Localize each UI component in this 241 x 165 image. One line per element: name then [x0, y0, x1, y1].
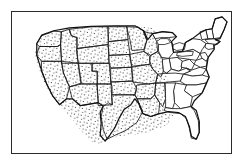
figure-root: Map of the contiguous United States	[0, 0, 241, 165]
us-map-svg	[12, 12, 231, 153]
map-frame	[11, 11, 232, 154]
shaded-region-western-states	[35, 26, 175, 144]
